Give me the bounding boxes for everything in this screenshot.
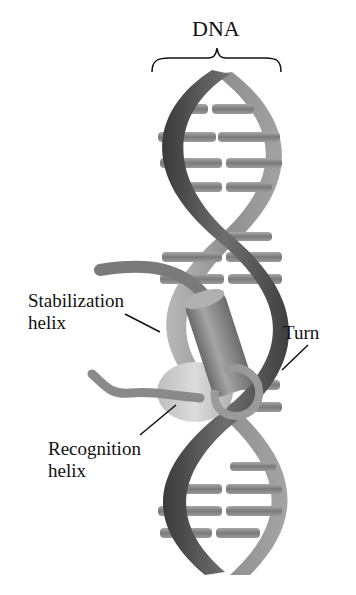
turn-label: Turn — [283, 322, 319, 344]
recognition-leader — [140, 405, 176, 435]
dna-bracket — [152, 48, 281, 72]
stabilization-label-line1: Stabilization — [28, 290, 124, 312]
stabilization-leader — [125, 314, 160, 332]
recognition-label-line1: Recognition — [48, 438, 141, 460]
recognition-helix-label: Recognition helix — [48, 438, 141, 482]
recognition-label-line2: helix — [48, 460, 141, 482]
stabilization-helix-label: Stabilization helix — [28, 290, 124, 334]
stabilization-label-line2: helix — [28, 312, 124, 334]
dna-label: DNA — [192, 18, 240, 40]
